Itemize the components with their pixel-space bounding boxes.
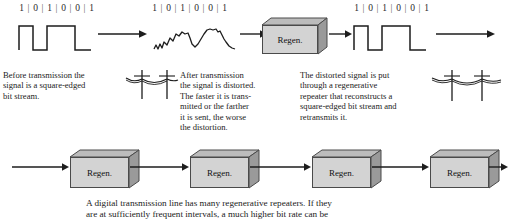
bit-stream-label-2: 1|0|1|0|0|1 xyxy=(150,3,229,14)
text-line: signal is a square-edged xyxy=(3,80,123,90)
arrow-chain-in xyxy=(12,162,70,172)
arrow-chain-2-3 xyxy=(250,162,312,172)
bit-2: 1 xyxy=(380,3,389,14)
regen-box-label: Regen. xyxy=(312,157,371,188)
arrow-chain-1-2 xyxy=(130,162,190,172)
arrow-regen-to-output xyxy=(329,28,353,40)
text-line: Before transmission the xyxy=(3,70,123,80)
regenerative-repeater-top[interactable]: Regen. xyxy=(262,18,328,56)
bit-1: 0 xyxy=(366,3,375,14)
square-wave-regenerated xyxy=(352,20,430,56)
text-line: the signal is distorted. xyxy=(180,80,292,90)
text-line: the distortion. xyxy=(180,122,292,132)
text-line: The distorted signal is put xyxy=(300,70,428,80)
arrow-chain-out xyxy=(489,162,509,172)
bit-3: 0 xyxy=(192,3,201,14)
bit-1: 0 xyxy=(31,3,40,14)
telephone-pole-pair-left-icon xyxy=(126,66,178,100)
bit-2: 1 xyxy=(178,3,187,14)
text-line: it is sent, the worse xyxy=(180,112,292,122)
text-line: square-edged bit stream and xyxy=(300,101,428,111)
arrow-chain-3-4 xyxy=(372,162,430,172)
regen-box-label: Regen. xyxy=(262,25,318,54)
distorted-wave-signal xyxy=(152,22,238,58)
bit-0: 1 xyxy=(352,3,361,14)
caption-line: A digital transmission line has many reg… xyxy=(86,198,446,209)
text-line: bit stream. xyxy=(3,91,123,101)
square-wave-source xyxy=(17,20,95,56)
arrow-source-to-distorted xyxy=(98,28,148,40)
text-line: After transmission xyxy=(180,70,292,80)
bit-5: 1 xyxy=(87,3,96,14)
bit-4: 0 xyxy=(408,3,417,14)
text-line: repeater that reconstructs a xyxy=(300,91,428,101)
arrow-output-onward xyxy=(436,28,496,40)
bit-4: 0 xyxy=(206,3,215,14)
bit-5: 1 xyxy=(422,3,431,14)
regen-box-label: Regen. xyxy=(430,157,489,188)
bit-4: 0 xyxy=(73,3,82,14)
regen-box-label: Regen. xyxy=(190,157,249,188)
text-line: The faster it is trans- xyxy=(180,91,292,101)
bit-stream-label-3: 1|0|1|0|0|1 xyxy=(352,3,431,14)
before-transmission-text: Before transmission the signal is a squa… xyxy=(3,70,123,101)
bit-stream-label-1: square-wave 1|0|1|0|0|1 xyxy=(17,3,96,14)
bit-5: 1 xyxy=(220,3,229,14)
bit-3: 0 xyxy=(59,3,68,14)
bit-3: 0 xyxy=(394,3,403,14)
text-line: through a regenerative xyxy=(300,80,428,90)
telephone-pole-pair-right-icon xyxy=(430,66,502,102)
regen-box-label: Regen. xyxy=(70,157,129,188)
bit-0: 1 xyxy=(17,3,26,14)
regenerative-repeater-text: The distorted signal is put through a re… xyxy=(300,70,428,122)
bit-1: 0 xyxy=(164,3,173,14)
after-transmission-text: After transmission the signal is distort… xyxy=(180,70,292,132)
text-line: retransmits it. xyxy=(300,112,428,122)
bottom-caption: A digital transmission line has many reg… xyxy=(86,198,446,220)
bit-0: 1 xyxy=(150,3,159,14)
bit-2: 1 xyxy=(45,3,54,14)
caption-line: are at sufficiently frequent intervals, … xyxy=(86,209,446,220)
text-line: mitted or the farther xyxy=(180,101,292,111)
